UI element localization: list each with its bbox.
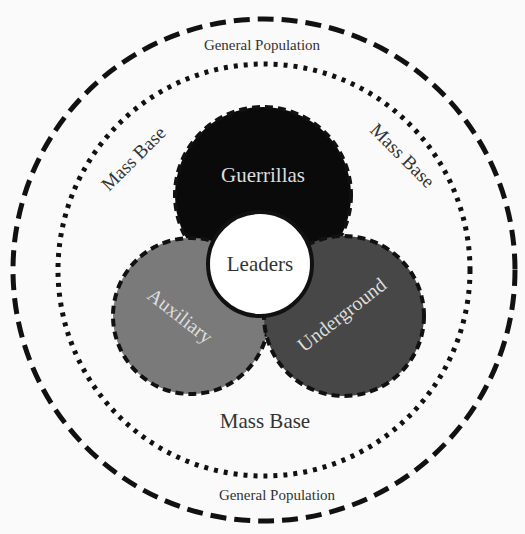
general-population-bottom-label: General Population — [219, 487, 336, 503]
guerrillas-label: Guerrillas — [221, 163, 305, 187]
general-population-top-label: General Population — [204, 37, 321, 53]
leaders-label: Leaders — [227, 252, 293, 276]
mass-base-bottom-label: Mass Base — [220, 409, 310, 433]
mass-base-left-label: Mass Base — [97, 122, 170, 195]
mass-base-right-label: Mass Base — [366, 119, 439, 192]
insurgency-structure-diagram: General Population General Population Ma… — [0, 0, 525, 534]
